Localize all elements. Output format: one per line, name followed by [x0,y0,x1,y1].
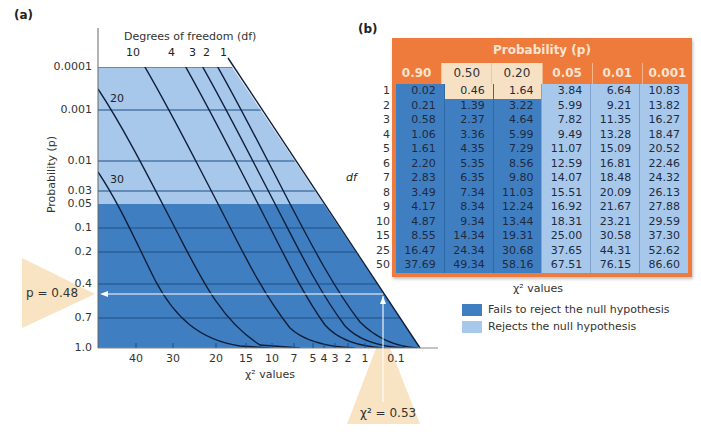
table-cell: 3.49 [396,186,444,201]
legend-swatch-light [462,321,482,333]
table-cell: 58.16 [494,258,542,273]
table-cell: 76.15 [591,258,639,273]
df-axis-label: df [346,171,357,184]
table-cell: 37.30 [640,229,688,244]
table-cell: 0.58 [396,113,444,128]
table-cell: 9.80 [494,171,542,186]
table-cell: 22.46 [640,157,688,172]
table-cell: 0.02 [396,84,444,99]
y-axis-title: Probability (p) [45,120,58,230]
df-row-label: 2 [370,99,390,114]
df-row-label: 1 [370,84,390,99]
table-cell: 11.03 [494,186,542,201]
y-tick-1.0: 1.0 [32,341,92,354]
legend-item-reject: Rejects the null hypothesis [462,320,670,333]
table-column: 0.461.392.373.364.355.356.357.348.349.34… [444,84,493,273]
df-label-2: 2 [203,46,210,59]
col-header-0.50: 0.50 [441,63,491,84]
table-cell: 5.35 [445,157,493,172]
table-cell: 11.35 [591,113,639,128]
df-row-label: 6 [370,157,390,172]
table-cell: 30.58 [591,229,639,244]
df-row-label: 7 [370,171,390,186]
x-tick-1: 1 [353,352,377,365]
table-cell: 24.32 [640,171,688,186]
table-cell: 12.24 [494,200,542,215]
table-cell: 26.13 [640,186,688,201]
table-title: Probability (p) [392,38,692,63]
table-column: 0.020.210.581.061.612.202.833.494.174.87… [396,84,444,273]
x-tick-20: 20 [204,352,228,365]
table-cell: 44.31 [591,244,639,259]
table-cell: 7.34 [445,186,493,201]
y-tick-0.01: 0.01 [32,154,92,167]
table-cell: 2.83 [396,171,444,186]
table-cell: 8.55 [396,229,444,244]
df-row-label: 15 [370,229,390,244]
chi-callout-label: χ² = 0.53 [360,406,416,420]
table-cell: 6.64 [591,84,639,99]
table-cell: 9.34 [445,215,493,230]
table-cell: 10.83 [640,84,688,99]
df-row-label: 50 [370,258,390,273]
df-row-label: 3 [370,113,390,128]
y-tick-0.7: 0.7 [32,311,92,324]
table-cell: 23.21 [591,215,639,230]
df-label-20: 20 [110,92,124,105]
table-cell: 37.65 [542,244,590,259]
table-cell: 30.68 [494,244,542,259]
table-cell: 4.64 [494,113,542,128]
table-cell: 6.35 [445,171,493,186]
df-row-label: 25 [370,244,390,259]
table-cell: 4.17 [396,200,444,215]
y-tick-0.03: 0.03 [32,184,92,197]
table-cell: 16.92 [542,200,590,215]
table-cell: 9.49 [542,128,590,143]
df-label-3: 3 [189,46,196,59]
table-cell: 16.27 [640,113,688,128]
x-tick-40: 40 [124,352,148,365]
table-cell: 18.48 [591,171,639,186]
df-row-labels: 12345678910152550 [370,84,390,273]
table-cell: 67.51 [542,258,590,273]
table-cell: 29.59 [640,215,688,230]
table-cell: 13.82 [640,99,688,114]
legend: Fails to reject the null hypothesis Reje… [462,303,670,333]
panel-b-label: (b) [358,22,378,36]
table-cell: 0.46 [445,84,493,99]
table-cell: 14.07 [542,171,590,186]
table-cell: 2.20 [396,157,444,172]
table-cell: 1.39 [445,99,493,114]
df-label-4: 4 [168,46,175,59]
table-cell: 37.69 [396,258,444,273]
col-header-0.20: 0.20 [491,63,541,84]
table-cell: 20.52 [640,142,688,157]
table-cell: 5.99 [542,99,590,114]
table-cell: 14.34 [445,229,493,244]
table-cell: 1.61 [396,142,444,157]
y-tick-0.001: 0.001 [32,103,92,116]
table-cell: 7.29 [494,142,542,157]
table-cell: 15.09 [591,142,639,157]
df-label-1: 1 [220,46,227,59]
table-cell: 7.82 [542,113,590,128]
df-title: Degrees of freedom (df) [124,30,256,43]
table-footer: χ² values [513,282,563,295]
x-tick-10: 10 [260,352,284,365]
table-cell: 1.06 [396,128,444,143]
table-cell: 27.88 [640,200,688,215]
table-cell: 3.22 [494,99,542,114]
table-cell: 20.09 [591,186,639,201]
col-header-0.001: 0.001 [642,63,692,84]
table-cell: 13.28 [591,128,639,143]
table-cell: 21.67 [591,200,639,215]
table-column: 10.8313.8216.2718.4720.5222.4624.3226.13… [639,84,688,273]
y-tick-0.05: 0.05 [32,197,92,210]
table-cell: 12.59 [542,157,590,172]
x-tick-30: 30 [161,352,185,365]
y-tick-0.1: 0.1 [32,221,92,234]
table-cell: 49.34 [445,258,493,273]
table-cell: 13.44 [494,215,542,230]
legend-swatch-dark [462,304,482,316]
table-cell: 3.84 [542,84,590,99]
